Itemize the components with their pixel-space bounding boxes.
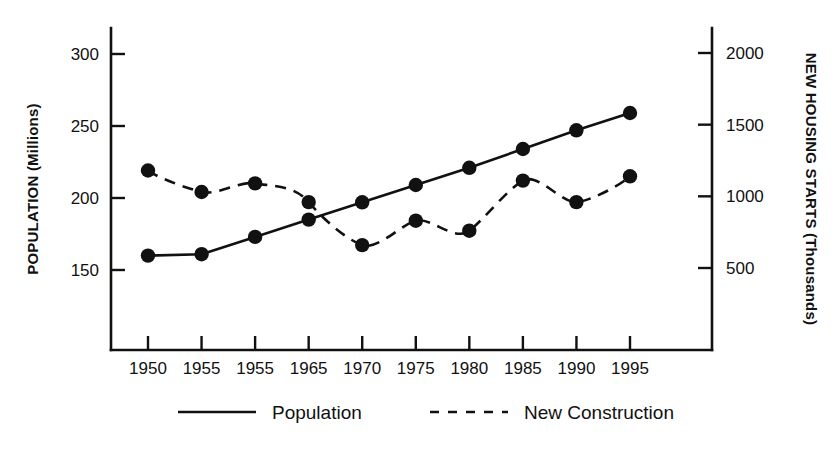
data-point-new-construction	[248, 176, 262, 190]
left-tick-label: 200	[71, 189, 99, 208]
data-point-new-construction	[409, 214, 423, 228]
x-tick-label: 1955	[183, 359, 221, 378]
data-point-population	[569, 123, 583, 137]
data-point-new-construction	[462, 224, 476, 238]
data-point-population	[141, 248, 155, 262]
x-tick-label: 1995	[611, 359, 649, 378]
x-tick-label: 1990	[558, 359, 596, 378]
right-tick-label: 2000	[726, 44, 764, 63]
chart-figure: 150200250300 500100015002000 19501955195…	[0, 0, 835, 450]
x-tick-label: 1955	[236, 359, 274, 378]
chart-canvas: 150200250300 500100015002000 19501955195…	[0, 0, 835, 450]
x-tick-label: 1950	[129, 359, 167, 378]
data-point-population	[302, 212, 316, 226]
left-tick-label: 250	[71, 117, 99, 136]
data-point-new-construction	[194, 185, 208, 199]
data-point-population	[355, 195, 369, 209]
right-axis-ticks	[698, 53, 712, 268]
data-point-population	[516, 142, 530, 156]
chart-legend: PopulationNew Construction	[178, 402, 674, 423]
y2-axis-title: NEW HOUSING STARTS (Thousands)	[803, 53, 820, 325]
data-series-layer	[141, 106, 637, 263]
data-point-population	[409, 178, 423, 192]
right-axis-tick-labels: 500100015002000	[726, 44, 764, 278]
data-point-new-construction	[623, 169, 637, 183]
data-point-population	[623, 106, 637, 120]
y-axis-title: POPULATION (Millions)	[24, 103, 41, 274]
right-tick-label: 1500	[726, 116, 764, 135]
data-point-new-construction	[302, 195, 316, 209]
x-tick-label: 1970	[343, 359, 381, 378]
data-point-population	[194, 247, 208, 261]
right-tick-label: 500	[726, 259, 754, 278]
left-axis-ticks	[111, 54, 125, 270]
right-tick-label: 1000	[726, 187, 764, 206]
data-point-new-construction	[569, 195, 583, 209]
data-point-new-construction	[516, 173, 530, 187]
data-point-new-construction	[141, 163, 155, 177]
series-line-new-construction	[148, 171, 630, 246]
series-line-population	[148, 113, 630, 256]
data-point-new-construction	[355, 238, 369, 252]
x-axis-ticks	[148, 336, 630, 350]
data-point-population	[462, 161, 476, 175]
x-tick-label: 1980	[450, 359, 488, 378]
left-axis-tick-labels: 150200250300	[71, 45, 99, 280]
data-point-population	[248, 230, 262, 244]
x-tick-label: 1975	[397, 359, 435, 378]
x-tick-label: 1985	[504, 359, 542, 378]
left-tick-label: 300	[71, 45, 99, 64]
x-tick-label: 1965	[290, 359, 328, 378]
legend-label-population: Population	[272, 402, 362, 423]
legend-label-new-construction: New Construction	[524, 402, 674, 423]
x-axis-tick-labels: 1950195519551965197019751980198519901995	[129, 359, 649, 378]
left-tick-label: 150	[71, 261, 99, 280]
